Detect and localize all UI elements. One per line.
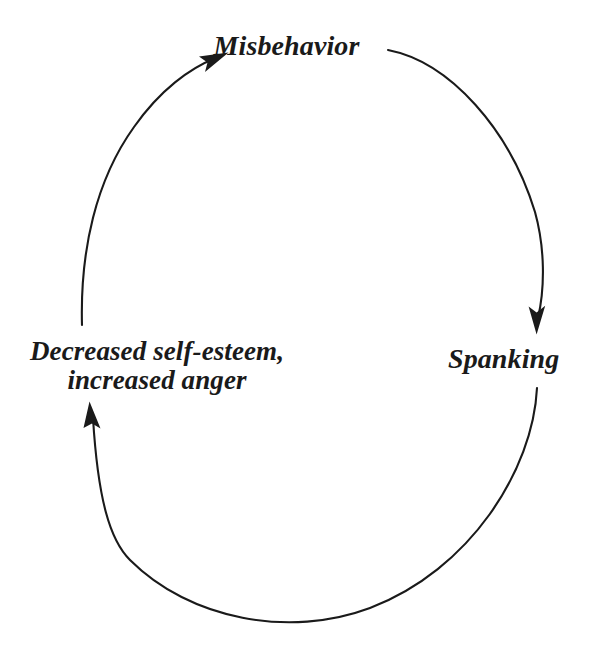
arrowhead-up-left-icon [84,402,101,429]
arrow-misbehavior-to-spanking [388,50,545,335]
arc-top-right [388,50,543,318]
arrowhead-down-icon [529,306,546,335]
node-label-self-esteem-line1: Decreased self-esteem, [30,336,284,366]
arc-bottom [93,388,537,622]
node-label-self-esteem-line2: increased anger [12,366,302,395]
cycle-arcs-svg [0,0,591,657]
cycle-diagram: Misbehavior Spanking Decreased self-este… [0,0,591,657]
arc-left [82,58,216,325]
arrow-spanking-to-selfesteem [84,388,538,622]
arrow-selfesteem-to-misbehavior [82,53,229,326]
node-label-spanking: Spanking [448,344,559,374]
node-label-misbehavior: Misbehavior [0,31,582,61]
node-label-self-esteem: Decreased self-esteem, increased anger [12,337,302,395]
